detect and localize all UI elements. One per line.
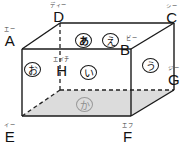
vertex-furigana-B: ビー	[126, 36, 137, 41]
vertex-letter-A: A	[5, 33, 15, 48]
vertex-furigana-G: ジー	[168, 66, 179, 71]
vertex-letter-F: F	[123, 129, 132, 144]
cuboid-figure: ディー D エー A シー C ビー B エイチ H ジー G イー E エフ …	[0, 0, 192, 151]
vertex-letter-D: D	[53, 9, 64, 24]
face-mark-char-e: え	[106, 33, 116, 48]
face-mark-top-a: あ	[75, 33, 92, 48]
vertex-label-B: ビー B	[120, 36, 137, 57]
face-mark-right-u: う	[142, 58, 159, 73]
vertex-letter-G: G	[168, 72, 180, 87]
face-mark-bottom-ka: か	[76, 97, 93, 112]
edge-A-D	[22, 23, 60, 49]
vertex-label-F: エフ F	[122, 123, 133, 144]
vertex-letter-E: E	[5, 129, 15, 144]
vertex-furigana-D: ディー	[50, 3, 66, 8]
face-mark-top-e: え	[102, 33, 119, 48]
edge-C-B	[131, 23, 174, 49]
vertex-label-C: シー C	[166, 4, 177, 25]
vertex-letter-C: C	[166, 10, 177, 25]
face-mark-front-i: い	[80, 65, 97, 80]
vertex-label-A: エー A	[4, 27, 15, 48]
face-mark-left-o: お	[24, 62, 41, 77]
vertex-letter-B: B	[120, 42, 130, 57]
vertex-label-G: ジー G	[168, 66, 180, 87]
face-mark-char-i: い	[84, 65, 94, 80]
face-mark-char-ka: か	[80, 97, 90, 112]
vertex-furigana-A: エー	[4, 27, 15, 32]
vertex-furigana-F: エフ	[122, 123, 133, 128]
face-mark-char-a: あ	[79, 33, 89, 48]
vertex-label-E: イー E	[4, 123, 15, 144]
vertex-furigana-E: イー	[4, 123, 15, 128]
face-mark-char-o: お	[28, 62, 38, 77]
vertex-letter-H: H	[56, 63, 67, 78]
vertex-furigana-H: エイチ	[53, 57, 69, 62]
vertex-furigana-C: シー	[166, 4, 177, 9]
vertex-label-H: エイチ H	[53, 57, 70, 78]
face-mark-char-u: う	[146, 58, 156, 73]
vertex-label-D: ディー D	[50, 3, 67, 24]
